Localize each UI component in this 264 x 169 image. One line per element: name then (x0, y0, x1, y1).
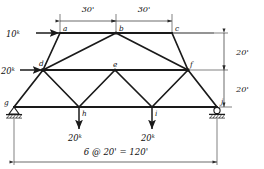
load-label-h: 20k (67, 133, 82, 143)
roller-circle-icon (214, 107, 220, 113)
bottom-dimension-group: 6 @ 20' = 120' (14, 119, 217, 165)
node-label-a: a (63, 24, 67, 33)
member-c-f (172, 33, 188, 70)
node-label-c: c (175, 24, 179, 33)
node-label-g: g (4, 98, 9, 107)
top-dimension-group: 30' 30' (60, 4, 172, 34)
node-label-b: b (119, 24, 124, 33)
dim-label-upper-height: 20' (235, 47, 249, 57)
node-label-j: j (219, 97, 224, 106)
member-g-d (14, 70, 43, 107)
load-label-a: 10k (6, 29, 20, 39)
pin-hatching (6, 115, 22, 118)
member-b-f (116, 33, 188, 70)
node-label-f: f (189, 60, 194, 69)
support-g (6, 107, 22, 118)
roller-hatching (209, 115, 225, 118)
member-h-e (79, 70, 115, 107)
dim-label-ab: 30' (82, 4, 95, 14)
member-i-f (152, 70, 188, 107)
member-e-i (115, 70, 152, 107)
member-f-j (188, 70, 217, 107)
load-label-i: 20k (140, 133, 155, 143)
member-d-h (43, 70, 79, 107)
dim-label-lower-height: 20' (235, 84, 249, 94)
support-j (209, 107, 225, 118)
node-label-i: i (155, 109, 157, 118)
node-label-e: e (113, 60, 118, 69)
node-label-d: d (39, 59, 44, 68)
diagram-canvas: 30' 30' 20' 20' (0, 0, 264, 169)
member-d-a (43, 33, 60, 70)
member-d-b (43, 33, 116, 70)
node-label-h: h (82, 109, 87, 118)
dim-label-total-span: 6 @ 20' = 120' (84, 147, 148, 157)
truss-diagram-svg: 30' 30' 20' 20' (0, 0, 264, 169)
load-label-d: 20k (0, 66, 15, 76)
joint-b (115, 32, 118, 35)
dim-label-bc: 30' (138, 4, 151, 14)
